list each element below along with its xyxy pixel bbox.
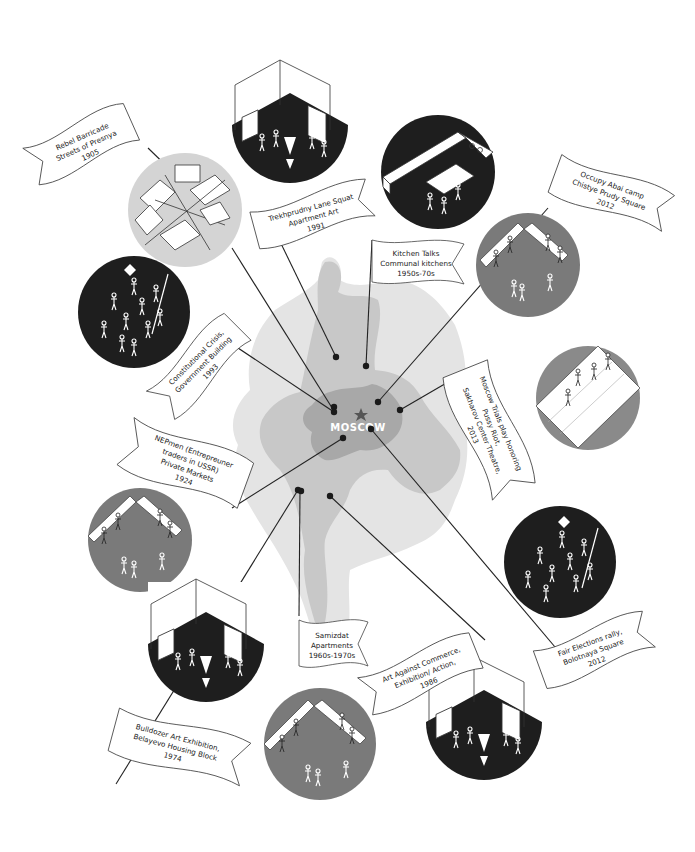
svg-text:1950s-70s: 1950s-70s bbox=[397, 269, 435, 278]
flag-occupy-abai: Occupy Abai camp Chistye Prudy Square 20… bbox=[547, 151, 675, 235]
flag-rebel-barricade: Rebel Barricade Streets of Presnya 1905 bbox=[21, 100, 141, 188]
city-label: MOSCOW bbox=[330, 422, 386, 433]
moscow-map: MOSCOW bbox=[233, 257, 467, 660]
scene-kitchen bbox=[381, 115, 495, 229]
svg-text:Apartments: Apartments bbox=[311, 641, 353, 650]
scene-moscow-trials bbox=[536, 346, 640, 450]
flag-fair-elections: Fair Elections rally, Bolotnaya Square 2… bbox=[532, 608, 657, 691]
scene-trekhprudny bbox=[232, 60, 348, 183]
svg-text:Kitchen Talks: Kitchen Talks bbox=[393, 249, 440, 258]
flag-trekhprudny: Trekhprudny Lane Squat Apartment Art 199… bbox=[249, 177, 377, 252]
svg-text:Communal kitchens: Communal kitchens bbox=[380, 259, 452, 268]
scene-constitutional-crisis bbox=[78, 256, 190, 368]
flag-samizdat: Samizdat Apartments 1960s-1970s bbox=[299, 620, 368, 668]
scene-occupy-abai bbox=[476, 213, 580, 317]
moscow-protest-spaces-diagram: MOSCOW bbox=[0, 0, 695, 852]
scene-rebel-barricade bbox=[128, 153, 242, 267]
flag-kitchen-talks: Kitchen Talks Communal kitchens 1950s-70… bbox=[372, 240, 464, 284]
scene-nepmen bbox=[88, 488, 192, 592]
flag-bulldozer: Bulldozer Art Exhibition, Belayevo Housi… bbox=[107, 705, 252, 789]
scene-fair-elections bbox=[504, 506, 616, 618]
scene-bulldozer bbox=[148, 579, 264, 702]
svg-text:1960s-1970s: 1960s-1970s bbox=[309, 651, 356, 660]
svg-text:Samizdat: Samizdat bbox=[315, 631, 349, 640]
scene-samizdat bbox=[264, 688, 376, 800]
